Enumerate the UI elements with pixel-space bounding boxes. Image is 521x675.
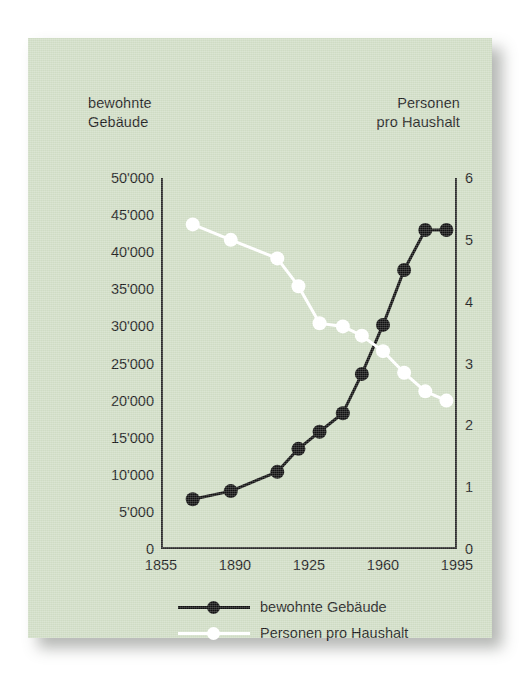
legend-marker-icon xyxy=(178,626,250,640)
legend: bewohnte GebäudePersonen pro Haushalt xyxy=(178,594,478,646)
data-point xyxy=(397,366,411,380)
right-tick-label: 5 xyxy=(465,232,473,248)
data-point xyxy=(418,384,432,398)
left-tick-label: 15'000 xyxy=(111,430,154,446)
data-point xyxy=(313,425,327,439)
legend-label: bewohnte Gebäude xyxy=(260,599,387,615)
series-canvas xyxy=(161,178,457,549)
x-tick-label: 1855 xyxy=(145,557,177,573)
data-point xyxy=(376,344,390,358)
data-point xyxy=(270,251,284,265)
left-tick-label: 10'000 xyxy=(111,467,154,483)
data-point xyxy=(186,217,200,231)
left-tick-label: 40'000 xyxy=(111,244,154,260)
left-tick-label: 0 xyxy=(146,541,154,557)
right-tick-label: 3 xyxy=(465,356,473,372)
data-point xyxy=(270,465,284,479)
x-tick-label: 1925 xyxy=(293,557,325,573)
data-point xyxy=(186,492,200,506)
left-tick-label: 20'000 xyxy=(111,393,154,409)
left-tick-label: 30'000 xyxy=(111,318,154,334)
data-point xyxy=(439,223,453,237)
left-tick-label: 5'000 xyxy=(119,504,154,520)
data-point xyxy=(355,367,369,381)
right-axis-ticks: 0123456 xyxy=(465,178,505,549)
legend-item: Personen pro Haushalt xyxy=(178,620,478,646)
right-tick-label: 4 xyxy=(465,294,473,310)
data-point xyxy=(224,233,238,247)
data-point xyxy=(313,316,327,330)
left-axis-ticks: 05'00010'00015'00020'00025'00030'00035'0… xyxy=(68,178,154,549)
data-point xyxy=(224,484,238,498)
plot-area xyxy=(161,178,457,549)
right-axis-heading: Personen pro Haushalt xyxy=(377,94,460,132)
data-point xyxy=(336,319,350,333)
legend-marker-icon xyxy=(178,600,250,614)
data-point xyxy=(418,223,432,237)
right-tick-label: 2 xyxy=(465,417,473,433)
legend-label: Personen pro Haushalt xyxy=(260,625,408,641)
data-point xyxy=(376,318,390,332)
left-tick-label: 50'000 xyxy=(111,170,154,186)
data-point xyxy=(397,263,411,277)
x-tick-label: 1995 xyxy=(441,557,473,573)
x-tick-label: 1890 xyxy=(219,557,251,573)
left-tick-label: 35'000 xyxy=(111,281,154,297)
legend-item: bewohnte Gebäude xyxy=(178,594,478,620)
chart-card: bewohnte Gebäude Personen pro Haushalt 0… xyxy=(28,38,492,638)
left-tick-label: 45'000 xyxy=(111,207,154,223)
x-tick-label: 1960 xyxy=(367,557,399,573)
right-tick-label: 6 xyxy=(465,170,473,186)
data-point xyxy=(355,329,369,343)
right-tick-label: 0 xyxy=(465,541,473,557)
x-axis-ticks: 18551890192519601995 xyxy=(161,557,457,579)
right-tick-label: 1 xyxy=(465,479,473,495)
data-point xyxy=(291,442,305,456)
left-axis-heading: bewohnte Gebäude xyxy=(88,94,152,132)
data-point xyxy=(291,279,305,293)
data-point xyxy=(336,406,350,420)
data-point xyxy=(439,394,453,408)
left-tick-label: 25'000 xyxy=(111,356,154,372)
